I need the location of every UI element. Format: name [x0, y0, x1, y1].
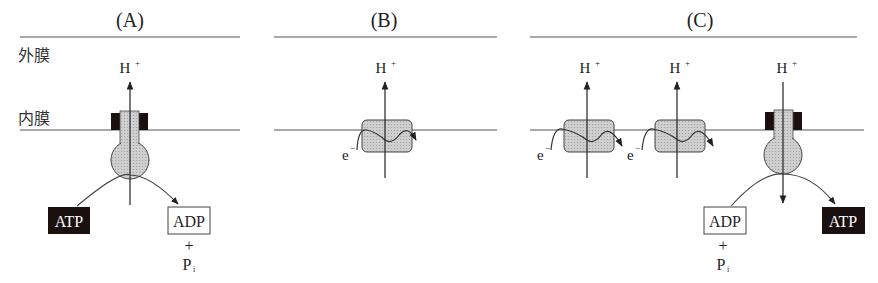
- electron-transport-complex-1: [564, 120, 614, 152]
- panel-c: (C) H + e − H + e −: [530, 9, 865, 274]
- panel-c-title: (C): [687, 9, 714, 32]
- svg-text:+: +: [391, 58, 396, 68]
- atp-box-c: ATP: [822, 207, 865, 234]
- proton-label-c3: H +: [777, 58, 798, 76]
- svg-text:i: i: [727, 265, 730, 274]
- panel-b: (B) H + e −: [274, 9, 497, 178]
- svg-text:i: i: [193, 265, 196, 274]
- svg-text:P: P: [183, 256, 192, 273]
- svg-text:−: −: [350, 143, 355, 153]
- proton-label-a: H +: [120, 58, 141, 76]
- plus-sign-c: +: [718, 237, 727, 254]
- atp-box-a: ATP: [48, 207, 90, 234]
- svg-text:+: +: [595, 58, 600, 68]
- outer-membrane-label: 外膜: [18, 46, 50, 65]
- svg-text:ADP: ADP: [173, 213, 205, 230]
- panel-b-title: (B): [371, 9, 398, 32]
- electron-transport-complex-2: [655, 120, 705, 152]
- electron-label-c2: e −: [627, 143, 640, 163]
- svg-text:+: +: [792, 58, 797, 68]
- svg-text:H: H: [777, 60, 788, 76]
- svg-text:+: +: [685, 58, 690, 68]
- plus-sign-a: +: [184, 237, 193, 254]
- svg-text:P: P: [717, 256, 726, 273]
- svg-text:e: e: [537, 147, 544, 163]
- proton-label-b: H +: [376, 58, 397, 76]
- svg-text:H: H: [580, 60, 591, 76]
- svg-text:e: e: [627, 147, 634, 163]
- svg-text:H: H: [120, 60, 131, 76]
- svg-text:+: +: [135, 58, 140, 68]
- proton-label-c1: H +: [580, 58, 601, 76]
- panel-a-title: (A): [116, 9, 144, 32]
- svg-text:e: e: [342, 147, 349, 163]
- adp-box-a: ADP: [168, 207, 210, 234]
- electron-label-c1: e −: [537, 143, 550, 163]
- svg-text:H: H: [376, 60, 387, 76]
- svg-text:ATP: ATP: [829, 213, 858, 230]
- phosphate-label-a: P i: [183, 256, 196, 274]
- svg-text:−: −: [545, 143, 550, 153]
- electron-label-b: e −: [342, 143, 355, 163]
- svg-text:ATP: ATP: [55, 213, 84, 230]
- phosphate-label-c: P i: [717, 256, 730, 274]
- diagram-canvas: (A) 外膜 内膜 H + ATP ADP + P i: [0, 0, 878, 283]
- svg-text:H: H: [670, 60, 681, 76]
- electron-transport-complex: [362, 120, 412, 152]
- inner-membrane-label: 内膜: [18, 109, 50, 128]
- proton-label-c2: H +: [670, 58, 691, 76]
- svg-text:−: −: [635, 143, 640, 153]
- svg-text:ADP: ADP: [709, 213, 741, 230]
- adp-box-c: ADP: [704, 207, 746, 234]
- panel-a: (A) 外膜 内膜 H + ATP ADP + P i: [18, 9, 240, 274]
